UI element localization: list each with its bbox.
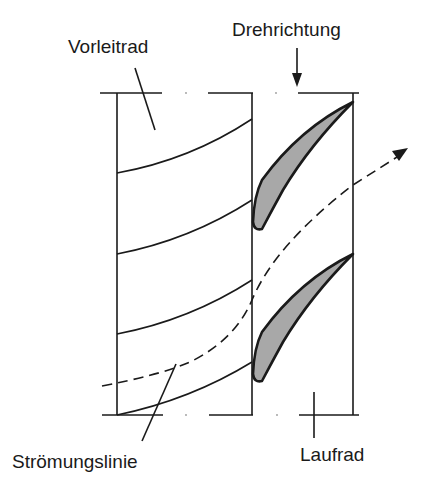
turbine-stage-diagram: Vorleitrad Drehrichtung Strömungslinie L… [0, 0, 423, 489]
rotor-blade-2 [253, 254, 353, 381]
leader-stroemungslinie [142, 364, 176, 441]
rotation-arrow-head-icon [292, 73, 302, 87]
label-laufrad: Laufrad [300, 444, 364, 465]
guide-vane-4 [117, 362, 252, 415]
label-vorleitrad: Vorleitrad [68, 36, 148, 57]
leader-vorleitrad [135, 68, 155, 130]
label-drehrichtung: Drehrichtung [232, 19, 341, 40]
guide-vane-3 [117, 280, 252, 334]
guide-vane-1 [117, 119, 252, 173]
streamline [102, 152, 405, 386]
center-mark [185, 92, 187, 94]
center-mark [185, 414, 187, 416]
center-mark [275, 92, 277, 94]
guide-vane-2 [117, 200, 252, 254]
center-mark [276, 414, 278, 416]
rotor-blade-1 [253, 102, 353, 229]
label-stroemungslinie: Strömungslinie [12, 451, 138, 472]
